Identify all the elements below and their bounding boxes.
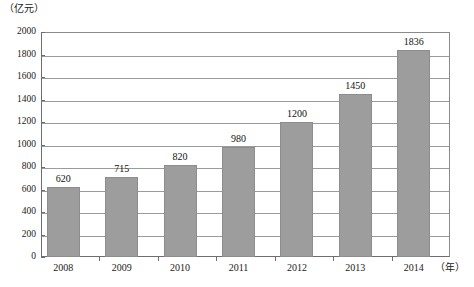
x-axis-tick-label-2010: 2010 xyxy=(150,262,210,273)
y-axis-tick-label: 600 xyxy=(0,185,36,195)
bar-2011 xyxy=(222,147,255,257)
x-axis-unit-label: （年） xyxy=(435,262,465,273)
x-axis-tick-label-2013: 2013 xyxy=(325,262,385,273)
gridline-y-1800 xyxy=(42,56,449,57)
x-axis-tick-mark xyxy=(392,257,393,261)
gridline-y-1200 xyxy=(42,123,449,124)
y-axis-tick-label: 2000 xyxy=(0,27,36,37)
bar-value-label-2011: 980 xyxy=(209,134,269,144)
y-axis-tick-label: 1600 xyxy=(0,72,36,82)
y-axis-tick-label: 1800 xyxy=(0,50,36,60)
bar-value-label-2009: 715 xyxy=(92,164,152,174)
y-axis-tick-mark xyxy=(41,235,45,236)
bar-value-label-2010: 820 xyxy=(150,152,210,162)
gridline-y-1400 xyxy=(42,101,449,102)
y-axis-tick-mark xyxy=(41,32,45,33)
x-axis-tick-mark xyxy=(333,257,334,261)
bar-2010 xyxy=(164,165,197,257)
bar-value-label-2008: 620 xyxy=(33,174,93,184)
bar-2009 xyxy=(105,177,138,257)
y-axis-tick-mark xyxy=(41,167,45,168)
bar-2013 xyxy=(339,94,372,257)
x-axis-tick-mark xyxy=(216,257,217,261)
y-axis-tick-label: 1200 xyxy=(0,117,36,127)
bar-2014 xyxy=(397,50,430,257)
y-axis-tick-mark xyxy=(41,145,45,146)
y-axis-tick-label: 1400 xyxy=(0,95,36,105)
y-axis-tick-label: 400 xyxy=(0,207,36,217)
x-axis-tick-label-2008: 2008 xyxy=(33,262,93,273)
bar-chart: （亿元） 02004006008001000120014001600180020… xyxy=(0,0,474,287)
x-axis-tick-label-2011: 2011 xyxy=(209,262,269,273)
x-axis-tick-mark xyxy=(275,257,276,261)
y-axis-tick-mark xyxy=(41,122,45,123)
y-axis-tick-label: 1000 xyxy=(0,140,36,150)
y-axis-tick-mark xyxy=(41,190,45,191)
y-axis-tick-mark xyxy=(41,100,45,101)
x-axis-tick-label-2009: 2009 xyxy=(92,262,152,273)
bar-2012 xyxy=(280,122,313,257)
y-axis-tick-mark xyxy=(41,55,45,56)
y-axis-unit-label: （亿元） xyxy=(4,2,44,15)
y-axis-tick-mark xyxy=(41,77,45,78)
x-axis-tick-mark xyxy=(99,257,100,261)
y-axis-tick-mark xyxy=(41,257,45,258)
x-axis-tick-mark xyxy=(158,257,159,261)
y-axis-tick-mark xyxy=(41,212,45,213)
bar-2008 xyxy=(47,187,80,257)
bar-value-label-2014: 1836 xyxy=(384,37,444,47)
bar-value-label-2013: 1450 xyxy=(325,81,385,91)
y-axis-tick-label: 0 xyxy=(0,252,36,262)
y-axis-tick-label: 200 xyxy=(0,230,36,240)
gridline-y-1600 xyxy=(42,78,449,79)
x-axis-tick-label-2012: 2012 xyxy=(267,262,327,273)
y-axis-tick-label: 800 xyxy=(0,162,36,172)
bar-value-label-2012: 1200 xyxy=(267,109,327,119)
